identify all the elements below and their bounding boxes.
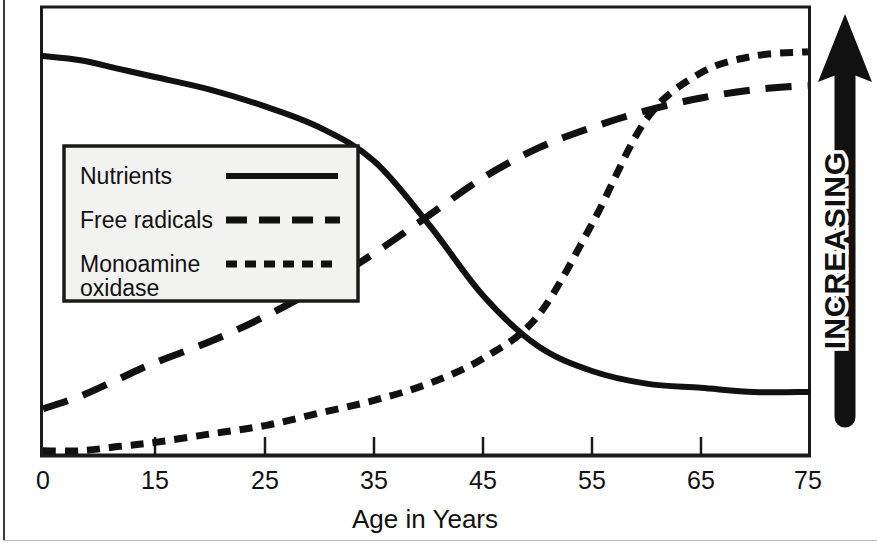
x-axis-label-65: 65	[687, 466, 715, 494]
x-axis-title: Age in Years	[352, 504, 498, 534]
increasing-arrow: INCREASING	[818, 14, 872, 417]
x-axis-label-0: 0	[36, 466, 50, 494]
legend-label-free-radicals: Free radicals	[80, 207, 213, 233]
x-axis-ticks	[155, 437, 701, 455]
x-axis-label-25: 25	[251, 466, 279, 494]
chart-page: Nutrients Free radicals Monoamine oxidas…	[0, 0, 877, 546]
x-axis-label-15: 15	[141, 466, 169, 494]
x-axis-label-75: 75	[794, 466, 822, 494]
legend-label-monoamine: Monoamine	[80, 251, 200, 277]
x-axis-tick-labels: 0 15 25 35 45 55 65 75	[36, 466, 822, 494]
legend-label-nutrients: Nutrients	[80, 163, 172, 189]
increasing-arrow-head	[818, 14, 872, 96]
x-axis-label-45: 45	[469, 466, 497, 494]
increasing-arrow-label: INCREASING	[818, 151, 851, 349]
chart-legend: Nutrients Free radicals Monoamine oxidas…	[64, 146, 358, 301]
x-axis-label-55: 55	[578, 466, 606, 494]
line-chart: Nutrients Free radicals Monoamine oxidas…	[0, 0, 877, 546]
x-axis-label-35: 35	[360, 466, 388, 494]
legend-label-oxidase: oxidase	[80, 275, 159, 301]
